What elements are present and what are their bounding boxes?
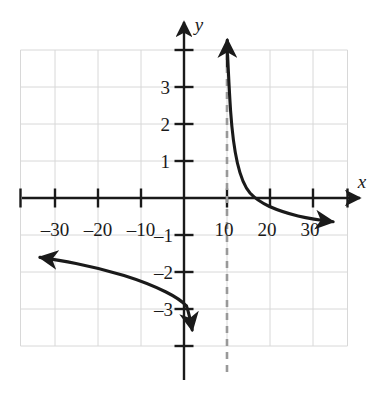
x-tick-label-10: 10 <box>215 219 234 240</box>
y-axis-label: y <box>193 14 204 35</box>
x-axis-label: x <box>357 171 367 192</box>
x-tick-label-neg20: ‒20 <box>83 219 113 240</box>
y-tick-label-1: 1 <box>161 151 171 172</box>
y-tick-label-neg2: ‒2 <box>153 262 173 283</box>
x-tick-label-20: 20 <box>258 219 277 240</box>
x-tick-label-neg30: ‒30 <box>40 219 70 240</box>
x-tick-label-neg10: ‒10 <box>126 219 156 240</box>
curve-right-branch <box>228 55 333 222</box>
y-tick-label-neg1: ‒1 <box>153 225 173 246</box>
y-tick-label-neg3: ‒3 <box>153 299 173 320</box>
y-tick-label-3: 3 <box>161 77 171 98</box>
x-tick-label-30: 30 <box>301 219 320 240</box>
y-tick-label-2: 2 <box>161 114 171 135</box>
coordinate-plane: x y ‒30 ‒20 ‒10 10 20 30 3 2 1 ‒1 ‒2 ‒3 <box>0 0 379 398</box>
graph-figure: x y ‒30 ‒20 ‒10 10 20 30 3 2 1 ‒1 ‒2 ‒3 <box>0 0 379 398</box>
